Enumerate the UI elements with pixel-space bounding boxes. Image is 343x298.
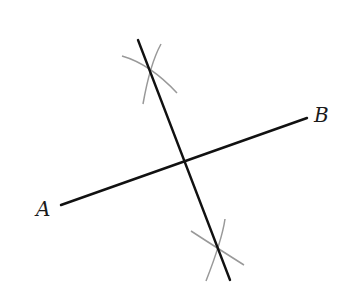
perpendicular-bisector [138,40,230,280]
construction-figure: A B [0,0,343,298]
diagram-canvas: A B [0,0,343,298]
label-point-b: B [313,103,329,127]
lower-arc-2 [206,219,225,281]
label-point-a: A [34,197,50,221]
